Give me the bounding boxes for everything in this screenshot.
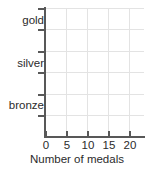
y-axis-tick [38, 29, 45, 31]
x-axis-tick [87, 131, 89, 138]
medals-bar-chart: gold silver bronze 0 5 10 15 20 Number o… [0, 0, 154, 172]
x-axis-tick [129, 131, 131, 138]
x-axis-title: Number of medals [0, 153, 154, 166]
gridline-vertical [87, 8, 88, 137]
plot-area [45, 8, 144, 137]
category-label-gold: gold [0, 14, 44, 26]
x-axis-tick [66, 131, 68, 138]
x-axis-tick-label-20: 20 [118, 139, 142, 152]
category-label-silver: silver [0, 57, 44, 69]
x-axis-tick [45, 131, 47, 138]
y-axis-tick [38, 72, 45, 74]
y-axis-tick [38, 115, 45, 117]
y-axis-tick [38, 94, 45, 96]
y-axis-tick [38, 8, 45, 10]
y-axis-tick [38, 51, 45, 53]
gridline-vertical [66, 8, 67, 137]
x-axis-tick [108, 131, 110, 138]
gridline-vertical [108, 8, 109, 137]
category-label-bronze: bronze [0, 99, 44, 111]
gridline-vertical [129, 8, 130, 137]
